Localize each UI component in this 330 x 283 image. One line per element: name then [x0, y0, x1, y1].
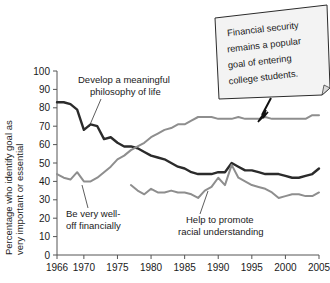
series-annotation-racial: Help to promote racial understanding	[178, 191, 264, 237]
y-tick-label: 20	[39, 213, 51, 224]
y-tick-label: 80	[39, 102, 51, 113]
y-tick-label: 30	[39, 194, 51, 205]
y-tick-label: 40	[39, 176, 51, 187]
leader-line-philosophy	[89, 99, 101, 127]
x-tick-label: 1966	[46, 262, 69, 273]
x-tick-label: 1975	[106, 262, 129, 273]
y-tick-label: 0	[44, 250, 50, 261]
series-label-racial-line1: Help to promote	[186, 214, 254, 225]
y-axis-title: Percentage who identify goal as very imp…	[3, 120, 25, 255]
line-chart-figure: Percentage who identify goal as very imp…	[0, 0, 330, 283]
y-tick-label: 70	[39, 121, 51, 132]
y-tick-label: 50	[39, 158, 51, 169]
series-label-philosophy-line1: Develop a meaningful	[78, 74, 170, 85]
y-axis: 0102030405060708090100	[33, 66, 57, 261]
y-tick-label: 60	[39, 139, 51, 150]
series-label-financial-line1: Be very well-	[66, 208, 120, 219]
data-series-line-2	[131, 165, 319, 198]
y-axis-title-line2: very important or essential	[14, 144, 25, 255]
callout-note: Financial security remains a popular goa…	[215, 5, 330, 122]
leader-line-financial	[82, 185, 88, 208]
x-tick-label: 1985	[174, 262, 197, 273]
x-axis: 196619701975198019851990199520002005	[46, 255, 330, 273]
x-tick-label: 1970	[73, 262, 96, 273]
data-series-layer	[57, 102, 319, 198]
x-axis-ticks: 196619701975198019851990199520002005	[46, 255, 330, 273]
data-series-line-0	[57, 102, 319, 177]
x-tick-label: 2005	[308, 262, 330, 273]
y-axis-ticks: 0102030405060708090100	[33, 66, 57, 261]
y-tick-label: 100	[33, 66, 50, 77]
series-annotation-financial: Be very well- off financially	[66, 185, 121, 231]
series-label-financial-line2: off financially	[66, 220, 121, 231]
y-axis-title-line1: Percentage who identify goal as	[3, 120, 14, 255]
x-tick-label: 2000	[274, 262, 297, 273]
series-label-philosophy-line2: philosophy of life	[90, 86, 161, 97]
x-tick-label: 1990	[207, 262, 230, 273]
x-tick-label: 1995	[241, 262, 264, 273]
series-annotation-philosophy: Develop a meaningful philosophy of life	[78, 74, 170, 127]
series-label-racial-line2: racial understanding	[178, 226, 264, 237]
x-tick-label: 1980	[140, 262, 163, 273]
y-tick-label: 10	[39, 231, 51, 242]
y-tick-label: 90	[39, 84, 51, 95]
